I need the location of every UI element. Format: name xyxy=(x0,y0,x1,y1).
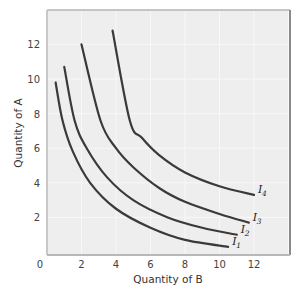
curve-label-subscript: 3 xyxy=(257,217,262,226)
x-tick-label: 6 xyxy=(147,259,153,270)
y-axis-ticks: 24681012 xyxy=(27,39,40,223)
x-tick-label: 8 xyxy=(182,259,188,270)
x-axis-label: Quantity of B xyxy=(133,273,202,285)
curve-label-subscript: 4 xyxy=(261,189,267,198)
x-tick-label: 4 xyxy=(113,259,119,270)
x-axis-ticks: 024681012 xyxy=(37,259,261,270)
y-tick-label: 12 xyxy=(27,39,40,50)
x-tick-label: 12 xyxy=(248,259,261,270)
y-axis-label: Quantity of A xyxy=(12,98,24,168)
plot-area: I1I2I3I4 xyxy=(47,10,290,255)
x-tick-label: 2 xyxy=(78,259,84,270)
curve-label-subscript: 2 xyxy=(244,229,250,238)
y-tick-label: 10 xyxy=(27,74,40,85)
y-tick-label: 2 xyxy=(34,212,40,223)
y-tick-label: 6 xyxy=(34,143,40,154)
x-tick-label: 10 xyxy=(213,259,226,270)
y-tick-label: 8 xyxy=(34,109,40,120)
indifference-curve-chart: I1I2I3I4 024681012 24681012 Quantity of … xyxy=(0,0,302,297)
curve-label-subscript: 1 xyxy=(236,241,241,250)
y-tick-label: 4 xyxy=(34,178,40,189)
x-tick-label: 0 xyxy=(37,259,43,270)
